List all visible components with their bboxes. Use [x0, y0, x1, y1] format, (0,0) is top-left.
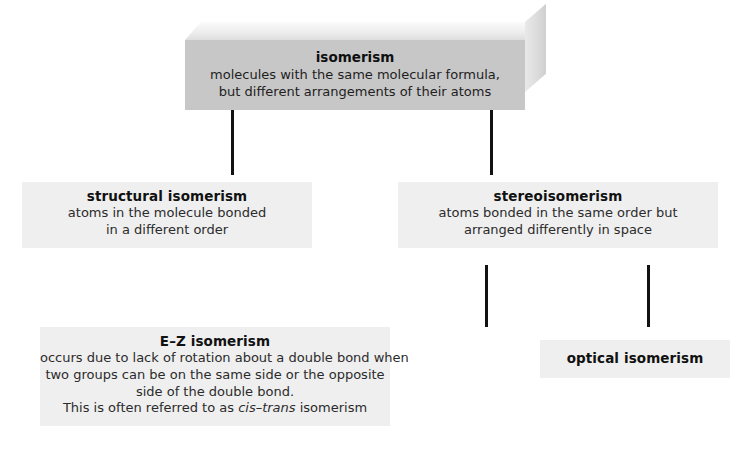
- node-isomerism-face: isomerism molecules with the same molecu…: [185, 40, 525, 110]
- node-ez-isomerism: E–Z isomerism occurs due to lack of rota…: [40, 327, 390, 426]
- node-stereoisomerism: stereoisomerism atoms bonded in the same…: [398, 182, 718, 248]
- connector-stereoisomerism-to-ez: [485, 265, 488, 327]
- node-ez-isomerism-desc-line-2: two groups can be on the same side or th…: [40, 367, 390, 384]
- node-isomerism: isomerism molecules with the same molecu…: [185, 22, 525, 110]
- slab-top-bevel: [185, 22, 541, 40]
- node-structural-isomerism-desc-line-2: in a different order: [22, 222, 312, 239]
- node-ez-isomerism-desc-line-4: This is often referred to as cis–trans i…: [40, 400, 390, 417]
- ez-final-before: This is often referred to as: [63, 400, 238, 415]
- node-isomerism-desc-line-2: but different arrangements of their atom…: [219, 84, 491, 101]
- node-structural-isomerism: structural isomerism atoms in the molecu…: [22, 182, 312, 248]
- node-ez-isomerism-desc-line-3: side of the double bond.: [40, 384, 390, 401]
- node-stereoisomerism-desc-line-1: atoms bonded in the same order but: [398, 205, 718, 222]
- ez-final-italic: cis–trans: [238, 400, 295, 415]
- node-structural-isomerism-title: structural isomerism: [22, 188, 312, 205]
- slab-side-bevel: [525, 4, 546, 92]
- connector-root-to-structural: [231, 110, 234, 175]
- ez-final-after: isomerism: [296, 400, 368, 415]
- connector-root-to-stereoisomerism: [490, 110, 493, 175]
- node-optical-isomerism-title: optical isomerism: [540, 350, 730, 367]
- node-optical-isomerism: optical isomerism: [540, 340, 730, 378]
- node-stereoisomerism-desc-line-2: arranged differently in space: [398, 222, 718, 239]
- node-isomerism-title: isomerism: [316, 49, 395, 67]
- node-ez-isomerism-desc-line-1: occurs due to lack of rotation about a d…: [40, 350, 390, 367]
- node-isomerism-desc-line-1: molecules with the same molecular formul…: [210, 67, 500, 84]
- diagram-canvas: isomerism molecules with the same molecu…: [0, 0, 749, 454]
- connector-stereoisomerism-to-optical: [647, 265, 650, 327]
- node-stereoisomerism-title: stereoisomerism: [398, 188, 718, 205]
- node-ez-isomerism-title: E–Z isomerism: [40, 333, 390, 350]
- node-structural-isomerism-desc-line-1: atoms in the molecule bonded: [22, 205, 312, 222]
